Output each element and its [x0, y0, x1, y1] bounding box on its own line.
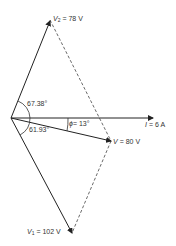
dashed-line-v-to-v1 [72, 141, 111, 233]
label-angle-v1: 61.93° [29, 126, 49, 133]
label-v1: V1 = 102 V [27, 228, 61, 236]
label-i: I = 6 A [145, 121, 165, 128]
label-angle-v2: 67.38° [27, 100, 47, 107]
arc-phi [67, 118, 68, 131]
label-v2: V2 = 78 V [53, 15, 83, 23]
label-v: V = 80 V [113, 138, 140, 145]
phasor-v [11, 118, 111, 141]
label-phi: ϕ= 13° [69, 120, 90, 127]
